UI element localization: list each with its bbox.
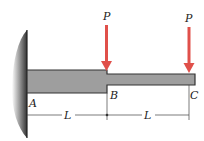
load-label-c: P <box>184 12 193 25</box>
load-arrow-c <box>184 27 195 73</box>
beam-diagram: P P A B C L L <box>0 0 204 141</box>
point-label-b: B <box>109 89 118 102</box>
point-label-a: A <box>28 97 37 110</box>
dim-label-bc: L <box>143 109 151 122</box>
dim-label-ab: L <box>63 109 71 122</box>
load-arrow-b <box>101 25 112 71</box>
point-label-c: C <box>190 89 199 102</box>
fixed-wall <box>12 30 27 138</box>
load-label-b: P <box>102 10 111 23</box>
